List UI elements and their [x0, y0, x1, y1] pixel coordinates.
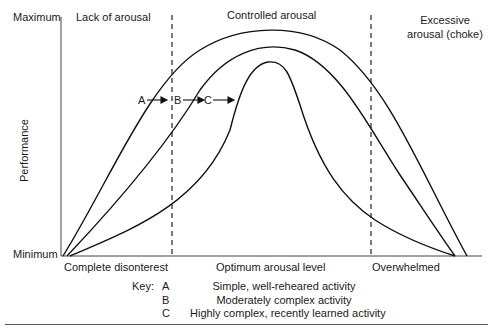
key-text-a: Simple, well-reheared activity [190, 280, 378, 293]
zone-excessive-arousal-line1: Excessive [400, 14, 490, 27]
arrow-a [147, 97, 167, 103]
arrow-c [213, 97, 234, 103]
arrow-b [183, 97, 204, 103]
key-letter-c: C [162, 307, 170, 320]
marker-c: C [204, 94, 212, 107]
key-text-c: Highly complex, recently learned activit… [190, 307, 378, 320]
bottom-label-disinterest: Complete disonterest [64, 261, 168, 274]
curve-c [70, 62, 455, 256]
key-title: Key: [132, 280, 154, 293]
key-letter-a: A [162, 280, 169, 293]
key-text-b: Moderately complex activity [190, 294, 378, 307]
bottom-label-optimum: Optimum arousal level [216, 261, 325, 274]
bottom-label-overwhelmed: Overwhelmed [372, 261, 440, 274]
curve-a [63, 30, 467, 256]
y-max-label: Maximum [13, 11, 61, 24]
zone-lack-of-arousal: Lack of arousal [76, 11, 151, 24]
zone-excessive-arousal-line2: arousal (choke) [400, 28, 490, 41]
y-axis-label: Performance [18, 119, 30, 182]
key-letter-b: B [162, 294, 169, 307]
curve-b [67, 47, 455, 256]
marker-b: B [174, 94, 181, 107]
marker-a: A [138, 94, 145, 107]
bottom-rule [5, 324, 488, 325]
y-min-label: Minimum [13, 248, 58, 261]
zone-controlled-arousal: Controlled arousal [227, 9, 316, 22]
